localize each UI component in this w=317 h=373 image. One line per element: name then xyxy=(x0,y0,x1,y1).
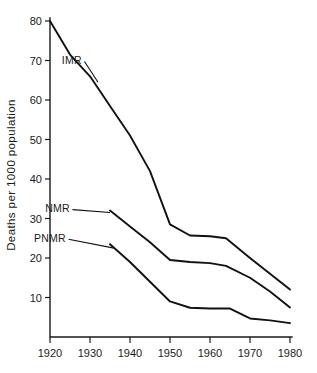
x-tick-label-1920: 1920 xyxy=(38,347,62,359)
series-label-nmr: NMR xyxy=(45,202,70,214)
y-tick-label-30: 30 xyxy=(30,213,42,225)
series-line-imr xyxy=(50,21,290,290)
leader-line-nmr xyxy=(73,210,111,213)
x-axis-ticks: 1920193019401950196019701980 xyxy=(38,337,302,359)
x-tick-label-1980: 1980 xyxy=(278,347,302,359)
x-tick-label-1970: 1970 xyxy=(238,347,262,359)
y-tick-label-80: 80 xyxy=(30,15,42,27)
series-line-pnmr xyxy=(110,244,290,323)
series-label-pnmr: PNMR xyxy=(34,232,66,244)
line-chart: Deaths per 1000 population 1020304050607… xyxy=(0,0,317,373)
x-tick-label-1960: 1960 xyxy=(198,347,222,359)
series-line-nmr xyxy=(110,211,290,308)
y-tick-label-60: 60 xyxy=(30,94,42,106)
y-tick-label-70: 70 xyxy=(30,55,42,67)
x-tick-label-1950: 1950 xyxy=(158,347,182,359)
y-tick-label-20: 20 xyxy=(30,252,42,264)
chart-container: Deaths per 1000 population 1020304050607… xyxy=(0,0,317,373)
y-axis-ticks: 1020304050607080 xyxy=(30,15,50,304)
chart-axes xyxy=(50,18,292,337)
leader-line-pnmr xyxy=(69,239,115,248)
series-lines xyxy=(50,21,290,323)
y-axis-title: Deaths per 1000 population xyxy=(5,99,17,251)
y-tick-label-40: 40 xyxy=(30,173,42,185)
y-tick-label-50: 50 xyxy=(30,134,42,146)
y-tick-label-10: 10 xyxy=(30,292,42,304)
x-tick-label-1930: 1930 xyxy=(78,347,102,359)
x-tick-label-1940: 1940 xyxy=(118,347,142,359)
series-label-imr: IMR xyxy=(62,54,82,66)
